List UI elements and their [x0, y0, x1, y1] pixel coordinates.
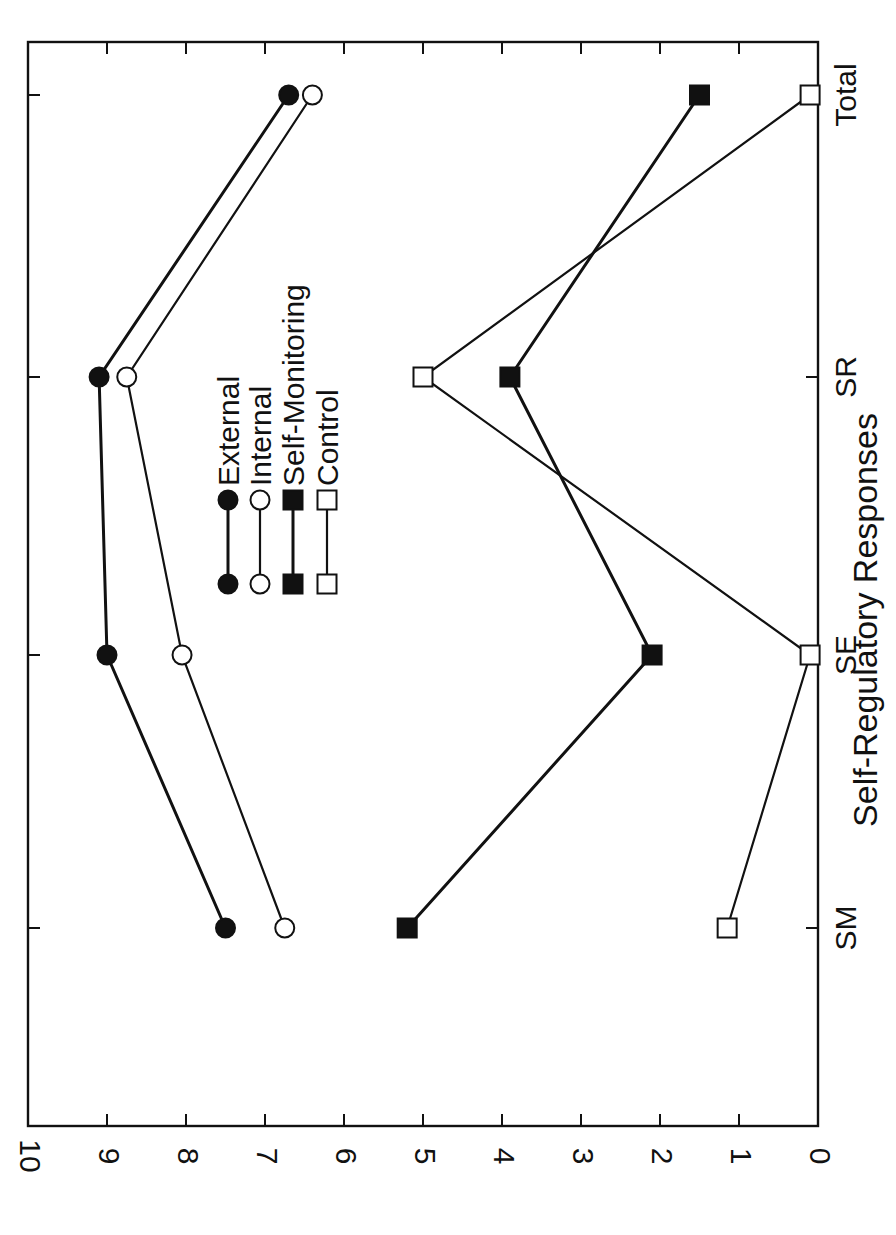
series-line — [127, 95, 313, 928]
open-circle-marker — [173, 646, 192, 665]
filled-square-marker — [690, 86, 709, 105]
open-circle-marker — [303, 86, 322, 105]
plot-frame — [28, 42, 818, 1126]
value-tick-label: 0 — [804, 1148, 837, 1165]
value-tick-label: 2 — [646, 1148, 679, 1165]
legend-item-external: External — [212, 376, 245, 594]
open-circle-marker — [117, 368, 136, 387]
legend-label: Internal — [244, 386, 277, 486]
value-tick-label: 1 — [725, 1148, 758, 1165]
open-circle-marker — [251, 491, 270, 510]
filled-circle-marker — [216, 919, 235, 938]
value-tick-label: 8 — [172, 1148, 205, 1165]
filled-square-marker — [500, 368, 519, 387]
series-self-monitoring — [398, 86, 709, 938]
open-circle-marker — [275, 919, 294, 938]
open-square-marker — [801, 646, 820, 665]
filled-circle-marker — [98, 646, 117, 665]
series-internal — [117, 86, 322, 938]
value-tick-label: 3 — [567, 1148, 600, 1165]
plot-border — [28, 42, 818, 1126]
category-axis-ticks — [28, 95, 818, 928]
legend-item-control: Control — [311, 389, 344, 593]
value-tick-label: 6 — [330, 1148, 363, 1165]
line-chart: 012345678910 SMSESRTotal ExternalInterna… — [0, 0, 896, 1235]
filled-circle-marker — [279, 86, 298, 105]
value-tick-label: 4 — [488, 1148, 521, 1165]
series-control — [414, 86, 820, 938]
value-axis-tick-labels: 012345678910 — [14, 1139, 837, 1172]
filled-square-marker — [398, 919, 417, 938]
filled-circle-marker — [219, 575, 238, 594]
filled-square-marker — [284, 575, 303, 594]
series-external — [90, 86, 299, 938]
filled-square-marker — [643, 646, 662, 665]
x-axis-title: Self-Regulatory Responses — [846, 413, 884, 827]
open-square-marker — [318, 491, 337, 510]
category-label: Total — [829, 63, 862, 126]
value-axis-ticks — [107, 42, 739, 1126]
legend-label: Control — [311, 389, 344, 486]
legend-label: External — [212, 376, 245, 486]
legend: ExternalInternalSelf-MonitoringControl — [212, 284, 344, 593]
filled-circle-marker — [219, 491, 238, 510]
filled-square-marker — [284, 491, 303, 510]
value-tick-label: 7 — [251, 1148, 284, 1165]
legend-item-self-monitoring: Self-Monitoring — [277, 284, 310, 593]
value-tick-label: 9 — [93, 1148, 126, 1165]
value-tick-label: 10 — [14, 1139, 47, 1172]
category-label: SM — [829, 906, 862, 951]
open-square-marker — [318, 575, 337, 594]
open-square-marker — [718, 919, 737, 938]
category-label: SR — [829, 356, 862, 398]
open-square-marker — [801, 86, 820, 105]
open-square-marker — [414, 368, 433, 387]
legend-item-internal: Internal — [244, 386, 277, 594]
filled-circle-marker — [90, 368, 109, 387]
value-tick-label: 5 — [409, 1148, 442, 1165]
open-circle-marker — [251, 575, 270, 594]
series-line — [407, 95, 699, 928]
series-lines — [90, 86, 820, 938]
legend-label: Self-Monitoring — [277, 284, 310, 486]
